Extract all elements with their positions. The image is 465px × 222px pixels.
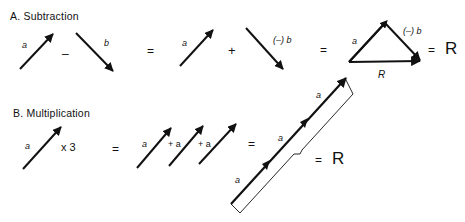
equals-sign-b2: = bbox=[248, 138, 255, 150]
sum-label-a1: a bbox=[142, 140, 147, 149]
section-a-title: A. Subtraction bbox=[10, 11, 79, 22]
result-R-a: R bbox=[445, 40, 457, 57]
equals-sign-b1: = bbox=[112, 143, 119, 155]
equals-sign-1: = bbox=[147, 45, 154, 57]
label-a-mult: a bbox=[25, 142, 30, 151]
plus-sign: + bbox=[228, 44, 236, 57]
label-a: a bbox=[22, 41, 27, 50]
equals-sign-3: = bbox=[428, 44, 435, 56]
section-b-title: B. Multiplication bbox=[13, 108, 90, 119]
equals-sign-b3: = bbox=[315, 154, 322, 166]
sum-label-plus-a2: + a bbox=[198, 140, 211, 149]
long-label-a1: a bbox=[235, 176, 240, 185]
triangle-label-R: R bbox=[378, 70, 385, 80]
triangle-label-a: a bbox=[352, 37, 357, 46]
sum-label-plus-a1: + a bbox=[168, 140, 181, 149]
label-a-2: a bbox=[182, 39, 187, 48]
label-neg-b: (–) b bbox=[273, 36, 292, 45]
label-b: b bbox=[104, 39, 109, 48]
long-label-a2: a bbox=[278, 134, 283, 143]
result-R-b: R bbox=[332, 150, 344, 167]
vector-a-arrow-2 bbox=[180, 30, 213, 66]
minus-sign: – bbox=[62, 48, 69, 60]
times-three: x 3 bbox=[61, 142, 76, 153]
equals-sign-2: = bbox=[320, 44, 327, 56]
triangle-R-arrow bbox=[349, 61, 420, 62]
triangle-label-neg-b: (–) b bbox=[403, 27, 422, 36]
long-label-a3: a bbox=[316, 91, 321, 100]
